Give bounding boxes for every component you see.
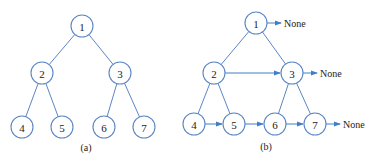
caption-a: (a) [80, 142, 91, 154]
tree-node-5: 5 [51, 116, 73, 138]
tree-edge-1-2 [221, 31, 249, 64]
tree-node-5: 5 [223, 113, 245, 135]
tree-node-1: 1 [245, 12, 267, 34]
node-label: 4 [191, 119, 197, 131]
node-label: 2 [211, 68, 217, 80]
node-label: 6 [272, 119, 278, 131]
tree-edge-3-7 [297, 83, 311, 114]
tree-figure-b-with-next-pointers: NoneNoneNone1234567 [183, 12, 365, 135]
tree-edge-2-4 [26, 83, 38, 116]
node-label: 4 [19, 122, 25, 134]
tree-edge-3-6 [107, 84, 117, 117]
tree-edge-2-5 [218, 83, 230, 114]
none-label: None [320, 68, 342, 79]
node-label: 3 [289, 68, 295, 80]
tree-edge-1-3 [262, 32, 285, 64]
tree-edge-1-3 [89, 35, 113, 65]
binary-tree-diagram: 1234567 NoneNoneNone1234567 (a) (b) [0, 0, 376, 159]
tree-edge-3-6 [278, 83, 288, 113]
tree-edge-3-7 [124, 83, 139, 117]
none-label: None [343, 119, 365, 130]
node-label: 2 [39, 68, 45, 80]
tree-node-7: 7 [304, 113, 326, 135]
tree-node-3: 3 [109, 62, 131, 84]
tree-node-7: 7 [133, 116, 155, 138]
tree-edge-2-4 [198, 83, 210, 114]
node-label: 3 [117, 68, 123, 80]
none-label: None [284, 18, 306, 29]
node-label: 6 [101, 122, 107, 134]
node-label: 5 [231, 119, 237, 131]
tree-node-3: 3 [281, 62, 303, 84]
node-label: 7 [141, 122, 147, 134]
node-label: 5 [59, 122, 65, 134]
tree-node-1: 1 [71, 15, 93, 37]
tree-node-4: 4 [11, 116, 33, 138]
tree-node-4: 4 [183, 113, 205, 135]
caption-b: (b) [260, 141, 272, 153]
node-label: 1 [79, 21, 85, 33]
tree-node-2: 2 [31, 62, 53, 84]
node-label: 1 [253, 18, 259, 30]
tree-figure-a: 1234567 [11, 15, 155, 138]
tree-node-6: 6 [264, 113, 286, 135]
tree-node-2: 2 [203, 62, 225, 84]
tree-node-6: 6 [93, 116, 115, 138]
tree-edge-2-5 [46, 83, 58, 116]
node-label: 7 [312, 119, 318, 131]
tree-edge-1-2 [49, 34, 75, 64]
